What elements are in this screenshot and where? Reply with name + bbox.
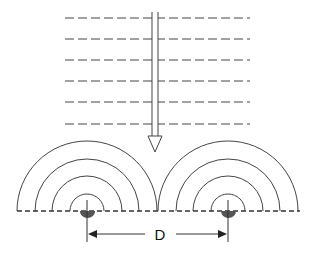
arrowhead-left-icon	[88, 230, 97, 238]
incident-arrow-icon	[148, 12, 162, 152]
separation-label: D	[155, 226, 166, 243]
separation-dimension: D	[88, 226, 227, 243]
arrowhead-right-icon	[218, 230, 227, 238]
interference-diagram: D	[0, 0, 316, 253]
